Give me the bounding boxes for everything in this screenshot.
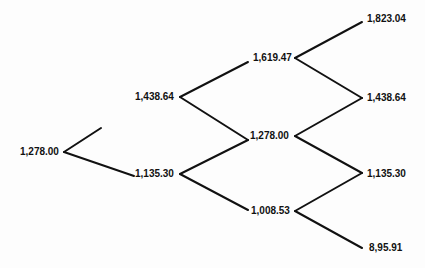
tree-edges	[0, 0, 425, 268]
edge-u1-uu2	[180, 62, 248, 97]
node-dd2: 1,008.53	[251, 205, 290, 217]
edge-u1-ud2	[180, 97, 248, 140]
edge-n0-u1	[64, 128, 101, 152]
node-d1: 1,135.30	[135, 168, 174, 180]
node-uu2: 1,619.47	[253, 52, 292, 64]
edge-d1-ud2	[180, 140, 248, 174]
node-n0: 1,278.00	[20, 146, 59, 158]
node-ddd3: 8,95.91	[369, 242, 402, 254]
node-u1: 1,438.64	[135, 91, 174, 103]
edge-uu2-uuu3	[295, 22, 362, 58]
binomial-tree-diagram: 1,278.00 1,438.64 1,135.30 1,619.47 1,27…	[0, 0, 425, 268]
node-udd3: 1,135.30	[367, 168, 406, 180]
edge-uu2-uud3	[295, 58, 362, 98]
edge-d1-dd2	[180, 174, 248, 210]
node-uuu3: 1,823.04	[367, 13, 406, 25]
edge-ud2-uud3	[295, 98, 362, 136]
edge-dd2-ddd3	[295, 211, 362, 248]
edge-n0-d1	[64, 152, 134, 176]
edge-ud2-udd3	[295, 136, 362, 173]
node-ud2: 1,278.00	[250, 130, 289, 142]
node-uud3: 1,438.64	[367, 92, 406, 104]
edge-dd2-udd3	[295, 173, 362, 211]
